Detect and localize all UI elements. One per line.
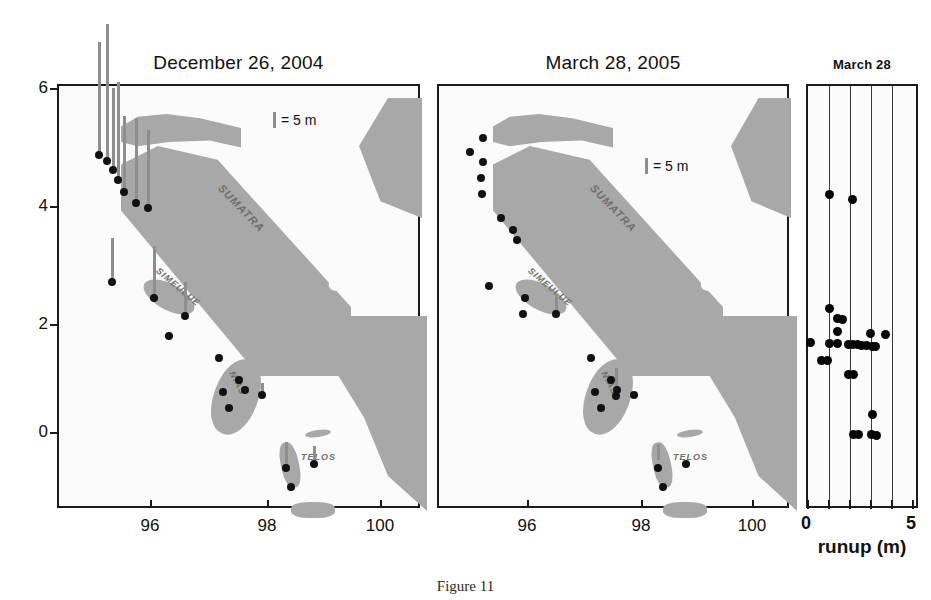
scatter-x-tick xyxy=(807,500,809,509)
scale-legend-text: = 5 m xyxy=(281,112,316,128)
runup-point xyxy=(103,157,111,165)
x-axis-tick xyxy=(150,500,152,508)
panel-c-title: March 28 xyxy=(806,57,918,72)
runup-point xyxy=(181,312,189,320)
x-tick-label-100: 100 xyxy=(362,516,398,536)
x-axis-tick xyxy=(752,500,754,508)
runup-point xyxy=(120,188,128,196)
scale-legend-text: = 5 m xyxy=(653,158,688,174)
y-tick-label-2: 2 xyxy=(22,314,48,334)
y-tick-label-0: 0 xyxy=(22,422,48,442)
gridline-3 xyxy=(871,86,872,506)
gridline-2 xyxy=(850,86,851,506)
panel-b-title: March 28, 2005 xyxy=(437,52,789,74)
x-axis-tick xyxy=(641,500,643,508)
scatter-point xyxy=(866,329,875,338)
x-axis-tick xyxy=(527,500,529,508)
runup-point xyxy=(497,214,505,222)
runup-point xyxy=(552,310,560,318)
scatter-x-tick xyxy=(849,500,851,509)
x-tick-label-98: 98 xyxy=(252,516,282,536)
scatter-x-tick xyxy=(828,500,830,509)
scale-legend: = 5 m xyxy=(645,158,688,174)
runup-scatter-panel xyxy=(806,84,918,508)
runup-point xyxy=(591,388,599,396)
runup-point xyxy=(109,166,117,174)
scatter-x-tick xyxy=(870,500,872,509)
x-tick-label-96: 96 xyxy=(135,516,165,536)
x-axis-tick xyxy=(380,500,382,508)
runup-bar xyxy=(135,118,138,203)
runup-point xyxy=(513,236,521,244)
scatter-x-max-label: 5 xyxy=(906,513,916,534)
x-tick-label-98: 98 xyxy=(626,516,656,536)
scatter-point xyxy=(806,338,815,347)
runup-point xyxy=(219,388,227,396)
vertical-bar-icon xyxy=(645,158,648,174)
y-tick-label-4: 4 xyxy=(22,196,48,216)
x-axis-tick xyxy=(267,500,269,508)
runup-bar xyxy=(112,88,115,170)
runup-point xyxy=(235,376,243,384)
runup-point xyxy=(95,151,103,159)
panel-a-content: SUMATRA SIMEULUE NIAS TELOS xyxy=(59,86,418,506)
panel-a-title: December 26, 2004 xyxy=(57,52,420,74)
y-axis-tick xyxy=(50,432,58,434)
label-telos: TELOS xyxy=(673,452,708,462)
scatter-x-axis-label: runup (m) xyxy=(806,536,918,558)
runup-point xyxy=(150,294,158,302)
scatter-point xyxy=(854,430,863,439)
y-axis-tick xyxy=(50,324,58,326)
scatter-point xyxy=(868,410,877,419)
y-axis-tick xyxy=(50,88,58,90)
runup-point xyxy=(225,404,233,412)
runup-point xyxy=(258,391,266,399)
runup-point xyxy=(485,282,493,290)
runup-point xyxy=(241,386,249,394)
runup-bar xyxy=(111,238,114,282)
telos-islet xyxy=(677,428,704,439)
y-axis-tick xyxy=(50,206,58,208)
x-tick-label-96: 96 xyxy=(512,516,542,536)
runup-bar xyxy=(657,444,660,460)
runup-point xyxy=(654,464,662,472)
runup-point xyxy=(282,464,290,472)
vertical-bar-icon xyxy=(273,112,276,128)
gridline-1 xyxy=(829,86,830,506)
scale-legend: = 5 m xyxy=(273,112,316,128)
runup-point xyxy=(597,404,605,412)
runup-point xyxy=(607,376,615,384)
scatter-point xyxy=(848,195,857,204)
scatter-point xyxy=(825,190,834,199)
gridline-4 xyxy=(892,86,893,506)
runup-point xyxy=(215,354,223,362)
runup-bar xyxy=(98,42,101,155)
runup-point xyxy=(519,310,527,318)
runup-point xyxy=(287,483,295,491)
runup-point xyxy=(509,226,517,234)
runup-point xyxy=(478,190,486,198)
scatter-x-tick xyxy=(891,500,893,509)
runup-point xyxy=(114,176,122,184)
runup-point xyxy=(479,134,487,142)
panel-b-content: SUMATRA SIMEULUE NIAS TELOS xyxy=(439,86,787,506)
scatter-point xyxy=(833,327,842,336)
runup-bar xyxy=(106,24,109,161)
runup-point xyxy=(479,158,487,166)
runup-point xyxy=(477,174,485,182)
label-telos: TELOS xyxy=(301,452,336,462)
runup-point xyxy=(630,391,638,399)
scatter-point xyxy=(871,342,880,351)
runup-point xyxy=(659,483,667,491)
map-panel-december-2004: SUMATRA SIMEULUE NIAS TELOS xyxy=(57,84,420,508)
runup-bar xyxy=(117,82,120,180)
runup-point xyxy=(612,392,620,400)
runup-bar xyxy=(147,130,150,208)
sumatra-landmass-ne xyxy=(731,98,791,218)
telos-islet xyxy=(305,428,332,439)
scatter-point xyxy=(838,315,847,324)
panel-c-content xyxy=(808,86,916,506)
map-panel-march-2005: SUMATRA SIMEULUE NIAS TELOS xyxy=(437,84,789,508)
runup-bar xyxy=(153,246,156,298)
scatter-x-min-label: 0 xyxy=(801,513,811,534)
